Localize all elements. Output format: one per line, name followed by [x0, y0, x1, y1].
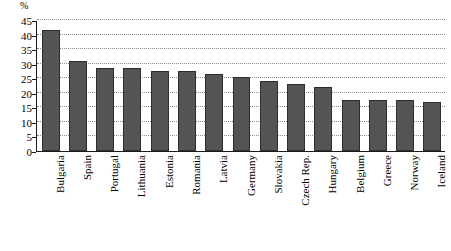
y-axis-tick: 25 — [21, 73, 36, 85]
plot-area — [36, 21, 445, 152]
x-axis-tick-label: Iceland — [436, 155, 447, 187]
bar — [287, 84, 305, 151]
bars-layer — [37, 21, 445, 151]
y-axis: 051015202530354045 — [0, 21, 36, 152]
x-axis-tick-label: Slovakia — [273, 155, 284, 194]
bar — [96, 68, 114, 151]
x-axis-labels: BulgariaSpainPortugalLithuaniaEstoniaRom… — [36, 155, 445, 249]
bar — [423, 102, 441, 151]
gridline — [37, 19, 445, 20]
x-axis-tick-label: Lithuania — [136, 155, 147, 197]
x-axis-tick-label: Greece — [382, 155, 393, 186]
bar — [42, 30, 60, 151]
y-axis-tick-mark — [32, 152, 36, 153]
bar — [69, 61, 87, 151]
bar — [396, 100, 414, 151]
x-axis-tick-label: Romania — [191, 155, 202, 195]
y-axis-tick: 40 — [21, 30, 36, 42]
x-axis-tick-label: Norway — [409, 155, 420, 190]
x-axis-tick-label: Bulgaria — [55, 155, 66, 193]
bar — [178, 71, 196, 151]
y-axis-tick: 20 — [21, 88, 36, 100]
x-axis-tick-label: Hungary — [327, 155, 338, 194]
x-axis-tick-label: Portugal — [109, 155, 120, 192]
bar — [260, 81, 278, 151]
bar — [233, 77, 251, 151]
x-axis-tick-label: Estonia — [164, 155, 175, 188]
y-axis-tick: 30 — [21, 59, 36, 71]
y-axis-tick: 45 — [21, 15, 36, 27]
y-axis-tick: 0 — [27, 146, 37, 158]
bar — [151, 71, 169, 151]
bar — [314, 87, 332, 151]
x-axis-tick-label: Germany — [246, 155, 257, 196]
x-axis-tick-label: Latvia — [218, 155, 229, 183]
y-axis-tick: 15 — [21, 102, 36, 114]
y-axis-unit-label: % — [20, 1, 28, 11]
x-axis-tick-label: Czech Rep. — [300, 155, 311, 206]
bar — [123, 68, 141, 151]
bar — [369, 100, 387, 151]
bar-chart-figure: % 051015202530354045 BulgariaSpainPortug… — [0, 0, 451, 251]
x-axis-tick-label: Belgium — [355, 155, 366, 193]
bar — [342, 100, 360, 151]
x-axis-tick-label: Spain — [82, 155, 93, 180]
y-axis-tick: 5 — [27, 131, 37, 143]
y-axis-tick: 35 — [21, 44, 36, 56]
bar — [205, 74, 223, 151]
y-axis-tick: 10 — [21, 117, 36, 129]
